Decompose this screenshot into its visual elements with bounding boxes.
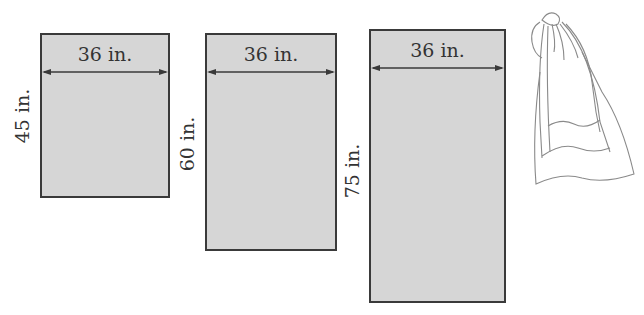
fabric-panel-1: 36 in. [40,33,170,198]
fabric-panel-2: 36 in. [205,33,337,251]
height-label-1: 45 in. [11,86,33,146]
height-label-3: 75 in. [341,141,363,201]
drawstring-bag-icon [512,2,644,198]
fabric-panel-3: 36 in. [369,29,506,303]
width-label-3: 36 in. [371,39,504,61]
height-label-2: 60 in. [176,114,198,174]
width-arrow-1 [42,67,168,77]
width-arrow-2 [207,67,335,77]
width-label-1: 36 in. [42,43,168,65]
width-arrow-3 [371,63,504,73]
width-label-2: 36 in. [207,43,335,65]
